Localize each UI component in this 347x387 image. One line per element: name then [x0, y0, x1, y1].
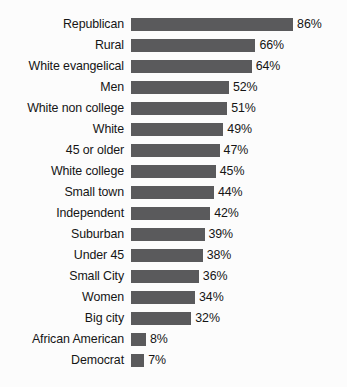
bar: [131, 102, 227, 115]
bar-zone: 36%: [131, 270, 347, 283]
bar-zone: 52%: [131, 81, 347, 94]
category-label: Republican: [0, 18, 131, 31]
bar: [131, 81, 229, 94]
bar-value-label: 38%: [203, 249, 232, 262]
category-label: Independent: [0, 207, 131, 220]
bar-value-label: 36%: [199, 270, 228, 283]
bar-value-label: 64%: [252, 60, 281, 73]
bar: [131, 312, 191, 325]
bar-zone: 44%: [131, 186, 347, 199]
bar-row: Rural66%: [0, 35, 347, 56]
category-label: Women: [0, 291, 131, 304]
bar: [131, 186, 214, 199]
bar-zone: 51%: [131, 102, 347, 115]
bar-value-label: 47%: [220, 144, 249, 157]
category-label: White: [0, 123, 131, 136]
bar-value-label: 34%: [195, 291, 224, 304]
bar-row: Suburban39%: [0, 224, 347, 245]
bar-zone: 86%: [131, 18, 347, 31]
bar-zone: 7%: [131, 354, 347, 367]
bar-row: White non college51%: [0, 98, 347, 119]
horizontal-bar-chart: Republican86%Rural66%White evangelical64…: [0, 0, 347, 387]
category-label: White college: [0, 165, 131, 178]
bar: [131, 144, 220, 157]
bar: [131, 333, 146, 346]
bar: [131, 354, 144, 367]
bar: [131, 18, 293, 31]
bar-row: Republican86%: [0, 14, 347, 35]
bar-row: 45 or older47%: [0, 140, 347, 161]
category-label: Small town: [0, 186, 131, 199]
category-label: Small City: [0, 270, 131, 283]
bar-value-label: 8%: [146, 333, 168, 346]
bar-row: Big city32%: [0, 308, 347, 329]
bar: [131, 249, 203, 262]
bar-row: Men52%: [0, 77, 347, 98]
bar-row: Small City36%: [0, 266, 347, 287]
bar-zone: 47%: [131, 144, 347, 157]
bar: [131, 60, 252, 73]
bar-zone: 34%: [131, 291, 347, 304]
bar-zone: 45%: [131, 165, 347, 178]
bar-zone: 49%: [131, 123, 347, 136]
category-label: Big city: [0, 312, 131, 325]
bar-row: White evangelical64%: [0, 56, 347, 77]
bar-value-label: 52%: [229, 81, 258, 94]
bar-row: Democrat7%: [0, 350, 347, 371]
category-label: Under 45: [0, 249, 131, 262]
bar: [131, 207, 210, 220]
bar-zone: 38%: [131, 249, 347, 262]
bar-value-label: 32%: [191, 312, 220, 325]
bar-value-label: 45%: [216, 165, 245, 178]
bar-value-label: 7%: [144, 354, 166, 367]
bar: [131, 291, 195, 304]
bar: [131, 270, 199, 283]
bar-value-label: 39%: [205, 228, 234, 241]
bar-value-label: 66%: [255, 39, 284, 52]
category-label: Men: [0, 81, 131, 94]
bar-zone: 66%: [131, 39, 347, 52]
category-label: Suburban: [0, 228, 131, 241]
bar-value-label: 86%: [293, 18, 322, 31]
bar-row: Independent42%: [0, 203, 347, 224]
bar-zone: 39%: [131, 228, 347, 241]
bar: [131, 228, 205, 241]
bar-value-label: 44%: [214, 186, 243, 199]
bar: [131, 123, 223, 136]
category-label: Rural: [0, 39, 131, 52]
bar-row: White college45%: [0, 161, 347, 182]
category-label: White evangelical: [0, 60, 131, 73]
bar-row: Small town44%: [0, 182, 347, 203]
bar-row: African American8%: [0, 329, 347, 350]
bar-value-label: 42%: [210, 207, 239, 220]
bar-value-label: 49%: [223, 123, 252, 136]
bar-zone: 42%: [131, 207, 347, 220]
bar: [131, 165, 216, 178]
category-label: Democrat: [0, 354, 131, 367]
bar-value-label: 51%: [227, 102, 256, 115]
bar-zone: 32%: [131, 312, 347, 325]
bar-row: Women34%: [0, 287, 347, 308]
bar-row: White49%: [0, 119, 347, 140]
category-label: White non college: [0, 102, 131, 115]
bar: [131, 39, 255, 52]
bar-row: Under 4538%: [0, 245, 347, 266]
category-label: 45 or older: [0, 144, 131, 157]
bar-zone: 64%: [131, 60, 347, 73]
bar-zone: 8%: [131, 333, 347, 346]
category-label: African American: [0, 333, 131, 346]
